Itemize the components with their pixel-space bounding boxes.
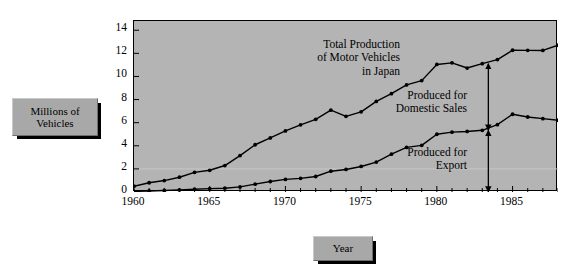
y-axis-label-line1: Millions of [30, 105, 79, 117]
data-point [208, 187, 212, 191]
data-point [480, 128, 484, 132]
x-axis-label-box: Year [313, 236, 373, 261]
data-point [162, 189, 166, 192]
data-point [299, 176, 303, 180]
data-point [435, 63, 439, 67]
y-tick-label: 14 [97, 21, 127, 33]
data-point [162, 179, 166, 183]
annotation-export-line1: Produced for [360, 146, 467, 159]
data-point [178, 188, 182, 192]
data-point [496, 123, 500, 127]
data-point [541, 117, 545, 121]
data-point [147, 189, 151, 192]
y-tick-label: 8 [97, 91, 127, 103]
data-point [178, 175, 182, 179]
data-point [329, 108, 333, 112]
data-point [134, 190, 136, 192]
data-point [314, 117, 318, 121]
annotation-export-line2: Export [360, 159, 467, 172]
y-tick-label: 2 [97, 160, 127, 172]
x-tick-label: 1980 [416, 195, 456, 207]
data-point [223, 186, 227, 190]
y-tick-label: 4 [97, 137, 127, 149]
x-tick-label: 1960 [113, 195, 153, 207]
y-tick-label: 6 [97, 114, 127, 126]
data-point [511, 48, 515, 52]
annotation-domestic-line1: Produced for [355, 89, 467, 102]
data-point [284, 129, 288, 133]
chart-figure: Millions of Vehicles Year 02468101214196… [0, 0, 578, 280]
data-point [134, 184, 136, 188]
annotation-domestic-line2: Domestic Sales [355, 102, 467, 115]
data-point [496, 58, 500, 62]
y-tick-label: 10 [97, 67, 127, 79]
data-point [420, 79, 424, 83]
data-point [238, 185, 242, 189]
data-point [405, 83, 409, 87]
data-point [193, 170, 197, 174]
data-point [480, 62, 484, 66]
y-tick-label: 12 [97, 44, 127, 56]
data-point [193, 187, 197, 191]
x-tick-label: 1965 [189, 195, 229, 207]
annotation-domestic-sales: Produced for Domestic Sales [355, 89, 467, 116]
data-point [435, 132, 439, 136]
annotation-total-line3: in Japan [278, 65, 400, 78]
data-point [208, 168, 212, 172]
data-point [238, 154, 242, 158]
data-point [314, 175, 318, 179]
data-point [541, 49, 545, 53]
data-point [526, 48, 530, 52]
annotation-export: Produced for Export [360, 146, 467, 173]
annotation-total-line1: Total Production [278, 38, 400, 51]
x-axis-label-line1: Year [333, 242, 353, 254]
data-point [253, 182, 257, 186]
data-point [556, 43, 558, 47]
data-point [556, 118, 558, 122]
data-point [465, 66, 469, 70]
y-axis-label-box: Millions of Vehicles [12, 98, 98, 136]
data-point [511, 112, 515, 116]
data-point [450, 61, 454, 65]
data-point [268, 180, 272, 184]
annotation-total-production: Total Production of Motor Vehicles in Ja… [278, 38, 400, 78]
data-point [344, 168, 348, 172]
y-axis-ticks [134, 30, 139, 192]
annotation-total-line2: of Motor Vehicles [278, 51, 400, 64]
data-point [253, 143, 257, 147]
data-point [465, 130, 469, 134]
x-tick-label: 1975 [340, 195, 380, 207]
y-tick-label: 0 [97, 183, 127, 195]
data-point [344, 114, 348, 118]
data-point [223, 164, 227, 168]
x-tick-label: 1985 [492, 195, 532, 207]
series-line-1 [134, 114, 558, 191]
data-point [450, 130, 454, 134]
data-point [299, 123, 303, 127]
data-point [147, 181, 151, 185]
data-point [268, 136, 272, 140]
x-tick-label: 1970 [264, 195, 304, 207]
y-axis-label-line2: Vehicles [30, 117, 79, 129]
data-point [329, 169, 333, 173]
data-point [526, 115, 530, 119]
data-point [284, 178, 288, 182]
